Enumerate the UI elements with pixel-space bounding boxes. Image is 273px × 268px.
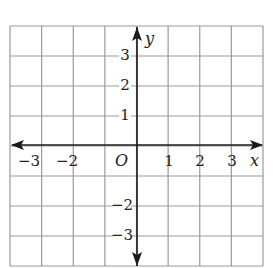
tick-labels: y x O −3 −2 1 2 3 3 2 1 −2 −3 [18,29,259,244]
origin-label: O [115,151,128,170]
y-tick-2: 2 [120,76,130,94]
y-tick-1: 1 [120,106,130,124]
x-tick-3: 3 [227,152,237,170]
y-tick-neg3: −3 [111,226,133,244]
x-axis-label: x [250,151,259,170]
x-tick-neg2: −2 [56,152,78,170]
x-tick-2: 2 [195,152,205,170]
y-tick-3: 3 [120,46,130,64]
y-axis-label: y [144,29,155,48]
y-tick-neg2: −2 [111,196,133,214]
x-tick-neg3: −3 [18,152,40,170]
coordinate-plane: y x O −3 −2 1 2 3 3 2 1 −2 −3 [0,0,273,268]
x-tick-1: 1 [164,152,174,170]
